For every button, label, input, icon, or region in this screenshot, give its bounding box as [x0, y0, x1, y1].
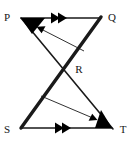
vertex-label-s: S [4, 123, 10, 135]
geometry-figure: P Q R S T [0, 0, 136, 143]
segment-pt [21, 18, 113, 129]
parallel-marks-st [55, 123, 71, 134]
parallel-marks-pq [51, 13, 67, 24]
geometry-canvas: P Q R S T [0, 0, 136, 143]
vertex-label-q: Q [108, 11, 116, 23]
annotation-arrow-upper [37, 26, 85, 51]
vertex-label-r: R [75, 63, 83, 75]
angle-marker-t [95, 110, 112, 128]
vertex-label-t: T [120, 123, 127, 135]
vertex-label-p: P [4, 11, 10, 23]
